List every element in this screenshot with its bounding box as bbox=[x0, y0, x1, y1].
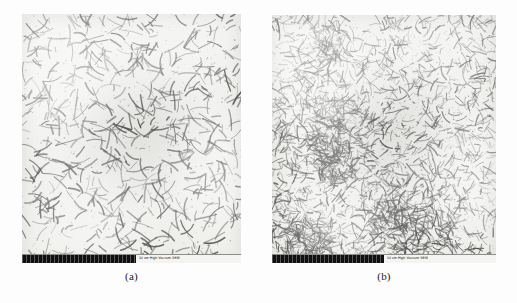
figure-root: 50 um High Vacuum SEM (a) 50 um High Vac… bbox=[0, 0, 517, 303]
scalebar-strip-b: 50 um High Vacuum SEM bbox=[272, 254, 496, 263]
scalebar-bar-a bbox=[22, 255, 136, 263]
micrograph-image-a bbox=[22, 14, 241, 263]
panel-caption-a: (a) bbox=[22, 270, 241, 282]
micrograph-panel-b: 50 um High Vacuum SEM bbox=[272, 15, 496, 263]
scalebar-bar-b bbox=[272, 255, 384, 263]
micrograph-image-b bbox=[272, 15, 496, 263]
scalebar-text-b: 50 um High Vacuum SEM bbox=[387, 257, 428, 261]
scalebar-strip-a: 50 um High Vacuum SEM bbox=[22, 254, 241, 263]
panel-caption-b: (b) bbox=[272, 270, 496, 282]
scalebar-info-b: 50 um High Vacuum SEM bbox=[384, 255, 496, 263]
scalebar-info-a: 50 um High Vacuum SEM bbox=[136, 255, 241, 263]
micrograph-panel-a: 50 um High Vacuum SEM bbox=[22, 14, 241, 263]
scalebar-text-a: 50 um High Vacuum SEM bbox=[139, 257, 180, 261]
